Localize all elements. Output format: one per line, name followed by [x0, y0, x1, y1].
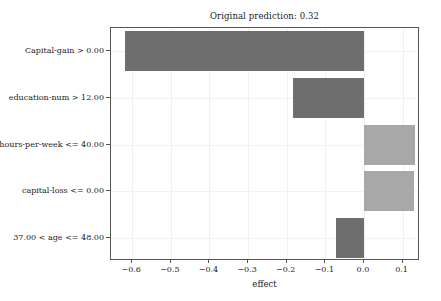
y-tick-label: capital-loss <= 0.00: [22, 186, 104, 195]
y-tick-mark: [106, 190, 110, 191]
y-tick-label: hours-per-week <= 40.00: [0, 139, 104, 148]
x-tick-mark: [170, 259, 171, 263]
x-tick-label: −0.2: [266, 265, 306, 274]
x-tick-label: −0.5: [150, 265, 190, 274]
y-tick-label: education-num > 12.00: [9, 92, 104, 101]
chart-page: Original prediction: 0.32 −0.6−0.5−0.4−0…: [0, 0, 441, 301]
x-tick-mark: [208, 259, 209, 263]
y-tick-mark: [106, 237, 110, 238]
plot-area: [110, 27, 419, 260]
x-tick-mark: [286, 259, 287, 263]
x-tick-mark: [131, 259, 132, 263]
y-tick-mark: [106, 144, 110, 145]
x-tick-label: −0.4: [188, 265, 228, 274]
bar[interactable]: [125, 31, 364, 71]
x-tick-label: −0.1: [304, 265, 344, 274]
bar[interactable]: [336, 218, 364, 258]
y-tick-mark: [106, 97, 110, 98]
y-tick-mark: [106, 50, 110, 51]
x-tick-label: −0.6: [111, 265, 151, 274]
bar[interactable]: [293, 78, 364, 118]
x-tick-mark: [402, 259, 403, 263]
bar[interactable]: [364, 171, 414, 211]
x-tick-label: 0.1: [382, 265, 422, 274]
x-axis-label: effect: [110, 279, 419, 289]
chart-title: Original prediction: 0.32: [110, 11, 419, 21]
gridline-horizontal: [111, 238, 418, 239]
y-tick-label: Capital-gain > 0.00: [25, 46, 104, 55]
x-tick-mark: [324, 259, 325, 263]
x-tick-mark: [247, 259, 248, 263]
x-tick-label: 0.0: [343, 265, 383, 274]
y-tick-label: 37.00 < age <= 48.00: [13, 232, 104, 241]
x-tick-label: −0.3: [227, 265, 267, 274]
x-tick-mark: [363, 259, 364, 263]
bar[interactable]: [364, 125, 415, 165]
gridline-horizontal: [111, 98, 418, 99]
